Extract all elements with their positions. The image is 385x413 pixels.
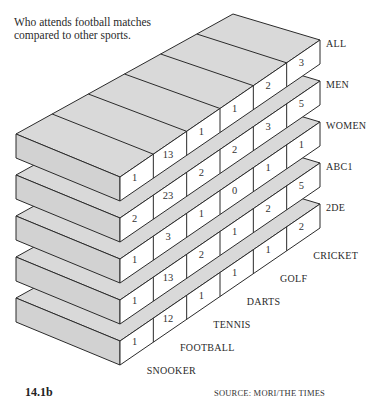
cell-value: 3 <box>265 121 270 132</box>
row-label: MEN <box>326 79 349 90</box>
cell-value: 2 <box>265 80 270 91</box>
cell-value: 2 <box>265 203 270 214</box>
cell-value: 1 <box>232 103 237 114</box>
row-label: ABC1 <box>326 161 353 172</box>
cell-value: 5 <box>299 98 304 109</box>
column-label: GOLF <box>280 273 307 284</box>
cell-value: 1 <box>132 295 137 306</box>
cell-value: 2 <box>199 249 204 260</box>
column-label: CRICKET <box>313 250 358 261</box>
cell-value: 1 <box>199 126 204 137</box>
cell-value: 5 <box>299 180 304 191</box>
cell-value: 1 <box>132 254 137 265</box>
column-label: TENNIS <box>213 319 250 330</box>
cell-value: 12 <box>163 313 174 324</box>
column-label: FOOTBALL <box>180 342 235 353</box>
cell-value: 1 <box>199 208 204 219</box>
cell-value: 1 <box>265 162 270 173</box>
cell-value: 2 <box>299 221 304 232</box>
cell-value: 1 <box>265 244 270 255</box>
row-labels-group: 2DEABC1WOMENMENALL <box>326 38 366 213</box>
cell-value: 0 <box>232 185 237 196</box>
cell-value: 2 <box>232 144 237 155</box>
cell-value: 23 <box>163 190 174 201</box>
row-label: 2DE <box>326 202 345 213</box>
source-credit: SOURCE: MORI/THE TIMES <box>214 388 325 398</box>
cell-value: 1 <box>232 226 237 237</box>
column-label: DARTS <box>247 296 281 307</box>
cell-value: 2 <box>132 213 137 224</box>
column-label: SNOOKER <box>147 365 196 376</box>
cell-value: 13 <box>163 149 174 160</box>
cell-value: 1 <box>132 172 137 183</box>
stacked-slab-chart: 1121112113212513101122322351131123 2DEAB… <box>0 0 385 413</box>
cell-value: 1 <box>232 267 237 278</box>
slabs-group: 1121112113212513101122322351131123 <box>16 14 320 365</box>
cell-value: 2 <box>199 167 204 178</box>
cell-value: 3 <box>299 57 304 68</box>
cell-value: 1 <box>199 290 204 301</box>
cell-value: 1 <box>132 336 137 347</box>
row-label: ALL <box>326 38 346 49</box>
row-label: WOMEN <box>326 120 366 131</box>
cell-value: 1 <box>299 139 304 150</box>
cell-value: 3 <box>165 231 170 242</box>
figure-number: 14.1b <box>25 385 53 400</box>
cell-value: 13 <box>163 272 174 283</box>
